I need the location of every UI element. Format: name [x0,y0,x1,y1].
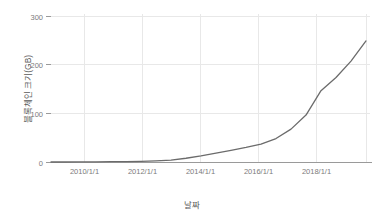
line-chart-plot: 300 200 100 0 2010/1/1 2012/1/1 2014/1/1… [0,0,384,219]
chart-figure: 300 200 100 0 2010/1/1 2012/1/1 2014/1/1… [0,0,384,219]
ytick-label-0: 0 [39,159,43,168]
xtick-label-2014: 2014/1/1 [186,167,215,176]
ytick-label-300: 300 [30,13,43,22]
xtick-label-2012: 2012/1/1 [128,167,157,176]
xtick-label-2016: 2016/1/1 [244,167,273,176]
x-axis-title: 날짜 [184,200,200,210]
chart-background [0,0,384,219]
y-axis-title: 블록체인 크기(GB) [23,55,33,123]
xtick-label-2018: 2018/1/1 [302,167,331,176]
xtick-label-2010: 2010/1/1 [70,167,99,176]
